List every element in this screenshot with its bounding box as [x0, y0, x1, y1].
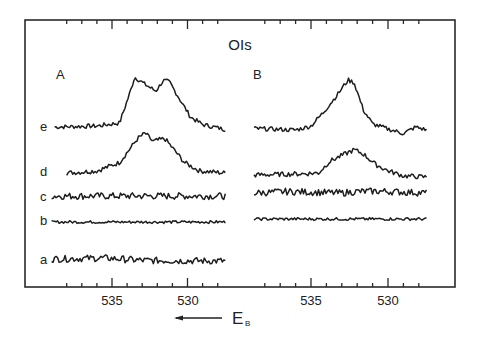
curve-label-e: e — [40, 119, 47, 134]
arrowhead-icon — [174, 316, 183, 321]
spectrum-a-c — [52, 193, 226, 200]
spectrum-b-b — [254, 218, 427, 221]
x-axis-label: E B — [174, 309, 250, 328]
curve-label-c: c — [40, 189, 47, 204]
spectrum-b-c — [254, 188, 427, 196]
tick-label-a-535: 535 — [101, 293, 123, 308]
spectrum-b-d — [254, 149, 427, 179]
tick-label-b-535: 535 — [300, 293, 322, 308]
curve-label-d: d — [40, 164, 47, 179]
x-axis-label-subscript: B — [245, 319, 250, 328]
spectra-curves — [52, 78, 427, 264]
curve-label-a: a — [40, 252, 48, 267]
spectrum-a-a — [52, 255, 226, 264]
spectrum-a-b — [52, 221, 226, 224]
x-axis-label-e: E — [232, 309, 243, 328]
spectrum-b-e — [254, 78, 427, 135]
chart-title: OIs — [228, 36, 251, 53]
tick-label-b-530: 530 — [377, 293, 399, 308]
spectrum-a-e — [55, 78, 226, 132]
curve-label-b: b — [40, 213, 47, 228]
panel-label-a: A — [56, 67, 65, 82]
tick-label-a-530: 530 — [177, 293, 199, 308]
plot-frame — [25, 20, 455, 287]
top-axis-ticks — [67, 20, 419, 29]
panel-label-b: B — [253, 67, 262, 82]
xps-o1s-figure: OIs A B e d c b a 535 530 535 530 E B — [0, 0, 478, 340]
spectrum-a-d — [67, 133, 226, 176]
bottom-axis-ticks — [67, 278, 419, 287]
